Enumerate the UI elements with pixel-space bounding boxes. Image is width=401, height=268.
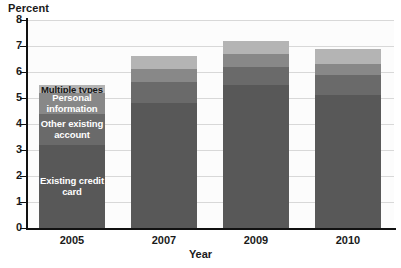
bar-segment-other-existing-account[interactable] [315,75,381,96]
legend-label-personal-information: Personal information [39,92,105,114]
y-tick-mark [20,46,26,47]
bar-2005[interactable]: Multiple typesPersonal informationOther … [39,85,105,228]
y-tick-label: 2 [2,169,22,181]
legend-label-existing-credit-card: Existing credit card [39,175,105,197]
y-tick-mark [20,202,26,203]
bar-segment-personal-information[interactable] [315,64,381,74]
x-tick-label-2005: 2005 [26,234,118,246]
bar-segment-personal-information[interactable] [223,54,289,67]
bar-segment-other-existing-account[interactable] [131,82,197,103]
x-axis-title: Year [0,248,401,260]
y-tick-mark [20,124,26,125]
x-tick-label-2007: 2007 [118,234,210,246]
y-tick-mark [20,228,26,229]
y-tick-label: 8 [2,13,22,25]
bar-2009[interactable] [223,41,289,228]
x-tick-label-2010: 2010 [302,234,394,246]
bar-segment-personal-information[interactable]: Personal information [39,93,105,114]
x-tick-label-2009: 2009 [210,234,302,246]
y-tick-label: 7 [2,39,22,51]
x-axis-line [26,228,396,230]
plot-area: Multiple typesPersonal informationOther … [26,20,394,228]
y-tick-label: 1 [2,195,22,207]
y-axis-line [26,18,28,230]
bar-segment-personal-information[interactable] [131,69,197,82]
y-tick-label: 5 [2,91,22,103]
bar-segment-multiple-types[interactable] [131,56,197,69]
y-tick-mark [20,98,26,99]
bar-segment-multiple-types[interactable]: Multiple types [39,85,105,93]
bar-segment-existing-credit-card[interactable] [131,103,197,228]
bar-2007[interactable] [131,56,197,228]
bar-segment-other-existing-account[interactable] [223,67,289,85]
bar-2010[interactable] [315,49,381,228]
y-tick-mark [20,20,26,21]
y-tick-mark [20,72,26,73]
bar-segment-multiple-types[interactable] [223,41,289,54]
legend-label-other-existing-account: Other existing account [39,118,105,140]
gridline [26,20,394,21]
bar-segment-other-existing-account[interactable]: Other existing account [39,114,105,145]
y-tick-label: 4 [2,117,22,129]
gridline [26,46,394,47]
y-tick-mark [20,150,26,151]
stacked-bar-chart: Percent Multiple typesPersonal informati… [0,0,401,268]
y-tick-label: 0 [2,221,22,233]
y-tick-mark [20,176,26,177]
bar-segment-multiple-types[interactable] [315,49,381,65]
y-tick-label: 3 [2,143,22,155]
bar-segment-existing-credit-card[interactable]: Existing credit card [39,145,105,228]
y-tick-label: 6 [2,65,22,77]
bar-segment-existing-credit-card[interactable] [315,95,381,228]
bar-segment-existing-credit-card[interactable] [223,85,289,228]
